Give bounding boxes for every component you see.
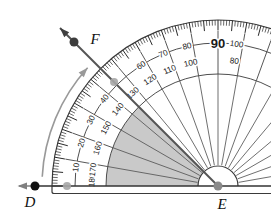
scale-label-90-shared: 90 bbox=[211, 36, 225, 51]
marker-dot-ray-EF[interactable] bbox=[110, 78, 118, 86]
inner-scale-label-170: 170 bbox=[88, 162, 99, 177]
point-D[interactable] bbox=[31, 182, 40, 191]
diagram-canvas: 1020304060708010018017016015014013012011… bbox=[0, 0, 271, 220]
outer-scale-label-100: 100 bbox=[229, 39, 244, 50]
point-label-D: D bbox=[24, 194, 36, 210]
point-label-E: E bbox=[216, 196, 226, 212]
ray-ED-arrowhead bbox=[18, 183, 28, 190]
point-E[interactable] bbox=[214, 182, 223, 191]
point-label-F: F bbox=[89, 31, 100, 47]
outer-scale-label-10: 10 bbox=[71, 162, 81, 173]
protractor-figure: 1020304060708010018017016015014013012011… bbox=[0, 0, 271, 220]
inner-scale-label-80: 80 bbox=[229, 56, 240, 66]
point-F[interactable] bbox=[70, 38, 79, 47]
marker-dot-baseline[interactable] bbox=[63, 182, 71, 190]
